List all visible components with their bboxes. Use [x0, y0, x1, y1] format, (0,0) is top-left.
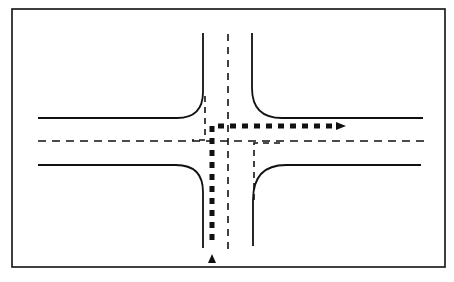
intersection-diagram: Intersection turning path diagram	[0, 0, 454, 282]
northeast-curb	[252, 33, 423, 118]
southeast-curb	[253, 165, 421, 246]
right-turn-path	[212, 122, 346, 240]
stop-line-north-approach	[192, 96, 205, 140]
southwest-curb	[38, 165, 203, 248]
arrow-right-triangle	[336, 122, 346, 130]
stop-line-east-approach	[254, 143, 282, 200]
arrow-up-triangle	[208, 254, 216, 263]
northwest-curb	[38, 33, 203, 118]
